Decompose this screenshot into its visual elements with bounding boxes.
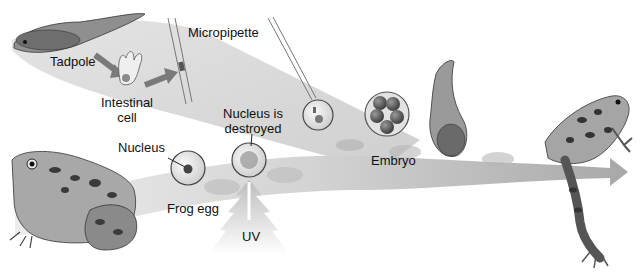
label-nucleus: Nucleus — [118, 140, 165, 155]
label-tadpole: Tadpole — [50, 54, 96, 69]
label-uv: UV — [242, 229, 260, 244]
label-nucleus-destroyed-line2: destroyed — [218, 121, 288, 136]
label-intestinal-cell-line2: cell — [97, 110, 157, 125]
nuclear-transplant-diagram: Tadpole Intestinal cell Micropipette Nuc… — [0, 0, 643, 275]
label-frog-egg: Frog egg — [167, 201, 219, 216]
label-micropipette: Micropipette — [188, 25, 259, 40]
donor-frog-illustration — [10, 151, 137, 250]
cloned-frog-illustration — [545, 96, 632, 268]
injected-egg — [303, 100, 333, 130]
cloned-tadpole-illustration — [430, 61, 467, 157]
enucleated-egg — [232, 134, 266, 177]
label-nucleus-destroyed: Nucleus is destroyed — [218, 106, 288, 136]
label-intestinal-cell-line1: Intestinal — [97, 95, 157, 110]
label-nucleus-destroyed-line1: Nucleus is — [218, 106, 288, 121]
label-intestinal-cell: Intestinal cell — [97, 95, 157, 125]
label-embryo: Embryo — [371, 153, 416, 168]
embryo-illustration — [365, 92, 409, 136]
diagram-artwork — [0, 0, 643, 275]
